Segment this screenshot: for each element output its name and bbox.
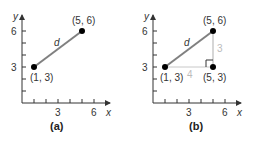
y-tick-3: 3 xyxy=(142,62,148,73)
segment-label: d xyxy=(184,37,190,48)
x-tick-3: 3 xyxy=(55,107,61,118)
x-axis-label: x xyxy=(236,107,243,118)
x-tick-6: 6 xyxy=(91,107,97,118)
x-axis-label: x xyxy=(105,107,112,118)
point-5-6 xyxy=(210,28,216,34)
x-ticks xyxy=(165,99,225,103)
x-ticks xyxy=(34,99,94,103)
point-label: (5, 6) xyxy=(203,15,226,26)
y-ticks xyxy=(22,31,26,91)
point-1-3 xyxy=(31,64,37,70)
segment-label: d xyxy=(54,37,60,48)
caption-b: (b) xyxy=(189,120,203,132)
y-axis-label: y xyxy=(12,11,19,22)
point-5-6 xyxy=(79,28,85,34)
point-label: (1, 3) xyxy=(30,72,53,83)
caption-a: (a) xyxy=(50,120,64,132)
y-ticks xyxy=(153,31,157,91)
point-5-3 xyxy=(210,64,216,70)
y-tick-6: 6 xyxy=(142,26,148,37)
vertical-leg-label: 3 xyxy=(217,43,223,54)
y-tick-6: 6 xyxy=(11,26,17,37)
point-label: (1, 3) xyxy=(160,72,183,83)
y-tick-3: 3 xyxy=(11,62,17,73)
panel-b: 3 6 3 6 x y 4 3 d (1, 3) (5, 6) (5, 3) (… xyxy=(142,11,243,132)
distance-diagram: 3 6 3 6 x y d (1, 3) (5, 6) (a) 3 6 3 6 … xyxy=(0,0,253,145)
x-tick-3: 3 xyxy=(186,107,192,118)
horizontal-leg-label: 4 xyxy=(187,69,193,80)
point-label: (5, 3) xyxy=(203,72,226,83)
point-1-3 xyxy=(162,64,168,70)
x-tick-6: 6 xyxy=(222,107,228,118)
y-axis-label: y xyxy=(143,11,150,22)
point-label: (5, 6) xyxy=(72,15,95,26)
panel-a: 3 6 3 6 x y d (1, 3) (5, 6) (a) xyxy=(11,11,112,132)
